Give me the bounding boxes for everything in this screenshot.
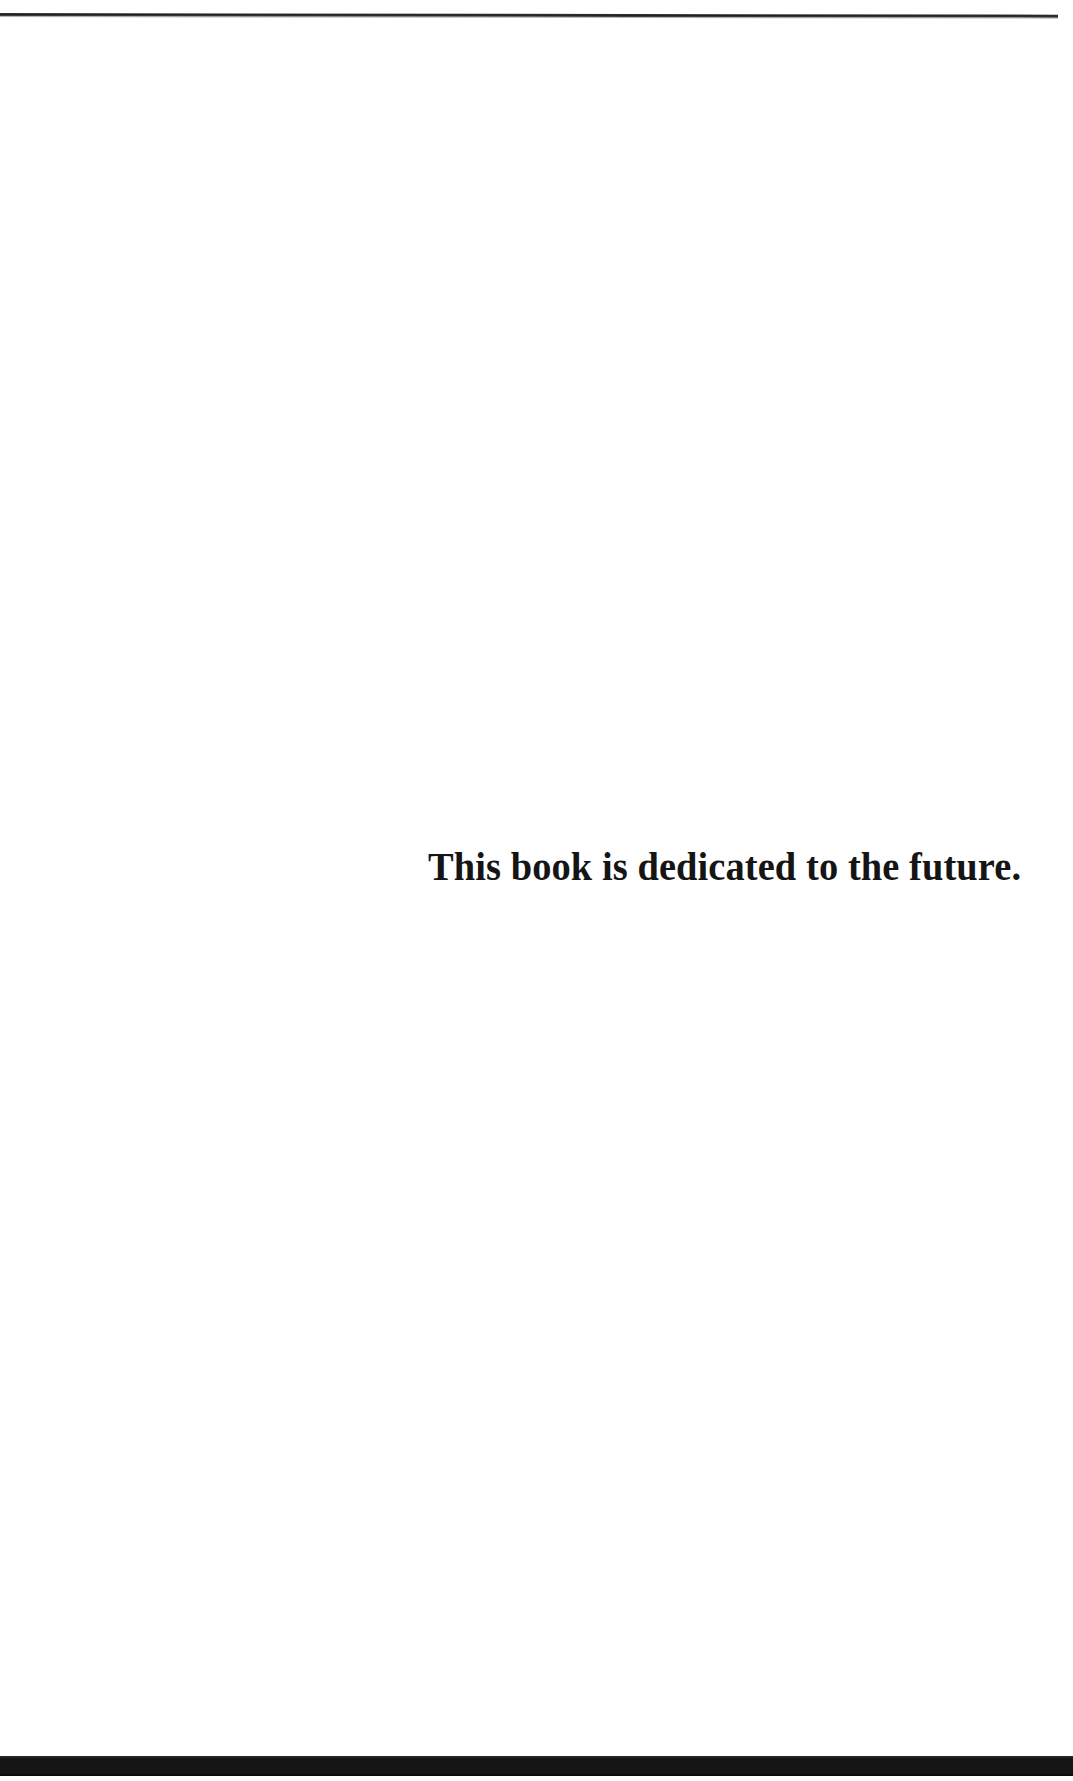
dedication-text: This book is dedicated to the future.	[428, 845, 1021, 889]
bottom-scan-edge-bar	[0, 1756, 1073, 1776]
bottom-margin	[0, 1776, 1073, 1781]
document-page: This book is dedicated to the future.	[0, 0, 1073, 1781]
top-horizontal-rule	[0, 13, 1058, 18]
dedication-block: This book is dedicated to the future.	[0, 845, 1021, 889]
